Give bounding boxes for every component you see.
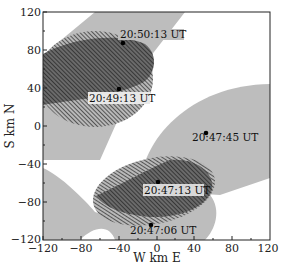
data-point-p3: 20:47:45 UT bbox=[192, 131, 258, 143]
point-label: 20:47:06 UT bbox=[130, 224, 196, 236]
y-tick-label: −40 bbox=[18, 158, 41, 171]
y-tick-label: 0 bbox=[34, 120, 41, 133]
x-tick-label: 80 bbox=[225, 242, 239, 255]
x-tick-label: 40 bbox=[187, 242, 201, 255]
y-tick-label: 80 bbox=[27, 44, 41, 57]
y-axis-label: S km N bbox=[3, 104, 17, 149]
y-tick-label: 120 bbox=[20, 6, 41, 19]
y-tick-label: −80 bbox=[18, 196, 41, 209]
point-label: 20:49:13 UT bbox=[89, 92, 155, 104]
y-tick-label: 40 bbox=[27, 82, 41, 95]
y-tick-label: −120 bbox=[11, 233, 41, 246]
x-tick-label: −80 bbox=[69, 242, 92, 255]
plot-area bbox=[37, 12, 270, 240]
point-label: 20:50:13 UT bbox=[120, 28, 186, 40]
x-tick-label: 120 bbox=[258, 242, 279, 255]
x-axis-label: W km E bbox=[133, 251, 180, 264]
scatter-chart: −120 −80 −40 0 40 80 120 −120 −80 −40 0 … bbox=[0, 0, 287, 264]
data-point-p5: 20:47:06 UT bbox=[130, 223, 196, 236]
point-label: 20:47:45 UT bbox=[192, 131, 258, 143]
point-label: 20:47:13 UT bbox=[144, 184, 210, 196]
x-tick-label: −40 bbox=[107, 242, 130, 255]
